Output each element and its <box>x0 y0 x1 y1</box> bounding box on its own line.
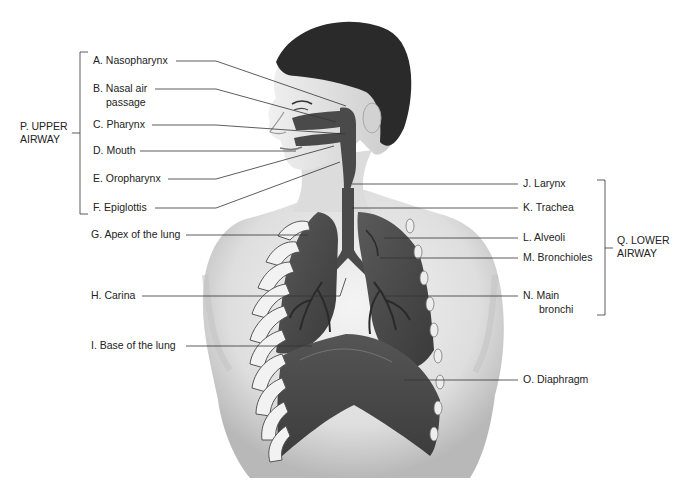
label-carina: H. Carina <box>91 289 135 302</box>
group-label-lower-airway: Q. LOWER AIRWAY <box>617 234 670 260</box>
label-main-bronchi-line1: N. Main <box>523 289 559 302</box>
group-upper-line2: AIRWAY <box>20 133 68 146</box>
label-main-bronchi-line2: bronchi <box>539 303 573 316</box>
group-label-upper-airway: P. UPPER AIRWAY <box>20 120 68 146</box>
respiratory-diagram: P. UPPER AIRWAY Q. LOWER AIRWAY A. Nasop… <box>0 0 689 489</box>
label-bronchioles: M. Bronchioles <box>523 251 592 264</box>
label-pharynx: C. Pharynx <box>93 118 145 131</box>
anatomy-illustration <box>0 0 689 489</box>
label-diaphragm: O. Diaphragm <box>523 373 588 386</box>
label-alveoli: L. Alveoli <box>523 231 565 244</box>
label-apex-of-lung: G. Apex of the lung <box>91 228 180 241</box>
group-lower-line1: Q. LOWER <box>617 234 670 247</box>
label-nasal-air-passage-line1: B. Nasal air <box>93 82 147 95</box>
label-trachea: K. Trachea <box>523 201 574 214</box>
label-larynx: J. Larynx <box>523 177 566 190</box>
group-upper-line1: P. UPPER <box>20 120 68 133</box>
group-lower-line2: AIRWAY <box>617 247 670 260</box>
label-base-of-lung: I. Base of the lung <box>91 339 176 352</box>
label-epiglottis: F. Epiglottis <box>93 201 147 214</box>
label-oropharynx: E. Oropharynx <box>93 172 161 185</box>
label-nasal-air-passage-line2: passage <box>106 96 146 109</box>
head <box>268 22 411 170</box>
label-nasopharynx: A. Nasopharynx <box>93 54 168 67</box>
label-mouth: D. Mouth <box>93 144 136 157</box>
